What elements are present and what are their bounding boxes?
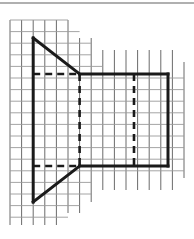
technical-drawing-svg xyxy=(0,0,194,239)
drawing-canvas xyxy=(0,0,194,239)
canvas-background xyxy=(0,0,194,239)
